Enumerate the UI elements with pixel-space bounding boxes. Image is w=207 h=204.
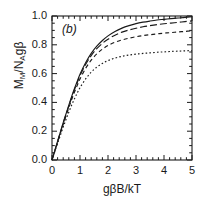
data-curves	[52, 17, 192, 160]
curve-long-dash	[52, 21, 192, 160]
plot-area	[0, 0, 207, 204]
axes-frame	[52, 16, 192, 160]
curve-dotted	[52, 51, 192, 160]
figure-panel: MM/NAgβ gβB/kT (b) 0.00.20.40.60.81.0 01…	[0, 0, 207, 204]
axis-ticks	[52, 16, 192, 160]
curve-solid	[52, 17, 192, 160]
curve-medium-dash	[52, 31, 192, 160]
